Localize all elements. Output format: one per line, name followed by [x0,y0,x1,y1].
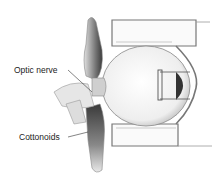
eye-illustration [0,0,223,180]
label-optic-nerve: Optic nerve [14,66,57,75]
illustration-canvas: Optic nerve Cottonoids [0,0,223,180]
label-cottonoids: Cottonoids [19,133,60,142]
